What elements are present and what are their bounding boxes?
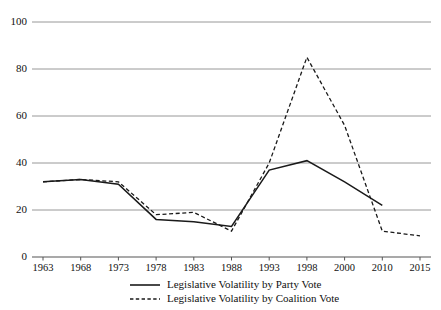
- x-axis-tick-label: 1968: [70, 262, 91, 273]
- x-axis-tick-label: 2010: [372, 262, 393, 273]
- x-axis-tick-label: 1963: [33, 262, 54, 273]
- legend-label: Legislative Volatility by Coalition Vote: [167, 292, 339, 304]
- y-axis-tick-label: 80: [16, 62, 28, 74]
- x-axis-tick-label: 1983: [183, 262, 204, 273]
- x-axis-tick-label: 2000: [334, 262, 355, 273]
- x-axis-tick-label: 1988: [221, 262, 242, 273]
- y-axis-tick-label: 0: [22, 250, 28, 262]
- line-chart: 020406080100 196319681973197819831988199…: [0, 0, 441, 310]
- x-axis-tick-label: 1998: [296, 262, 317, 273]
- x-axis-tick-label: 1973: [108, 262, 129, 273]
- y-axis-tick-label: 100: [11, 15, 28, 27]
- y-axis-tick-label: 60: [16, 109, 28, 121]
- x-axis-tick-label: 1978: [146, 262, 167, 273]
- x-axis-tick-label: 1993: [259, 262, 280, 273]
- chart-canvas: 020406080100 196319681973197819831988199…: [0, 0, 441, 310]
- y-axis-tick-label: 20: [16, 203, 28, 215]
- legend-label: Legislative Volatility by Party Vote: [167, 278, 322, 290]
- y-axis-tick-label: 40: [16, 156, 28, 168]
- x-axis-tick-label: 2015: [410, 262, 431, 273]
